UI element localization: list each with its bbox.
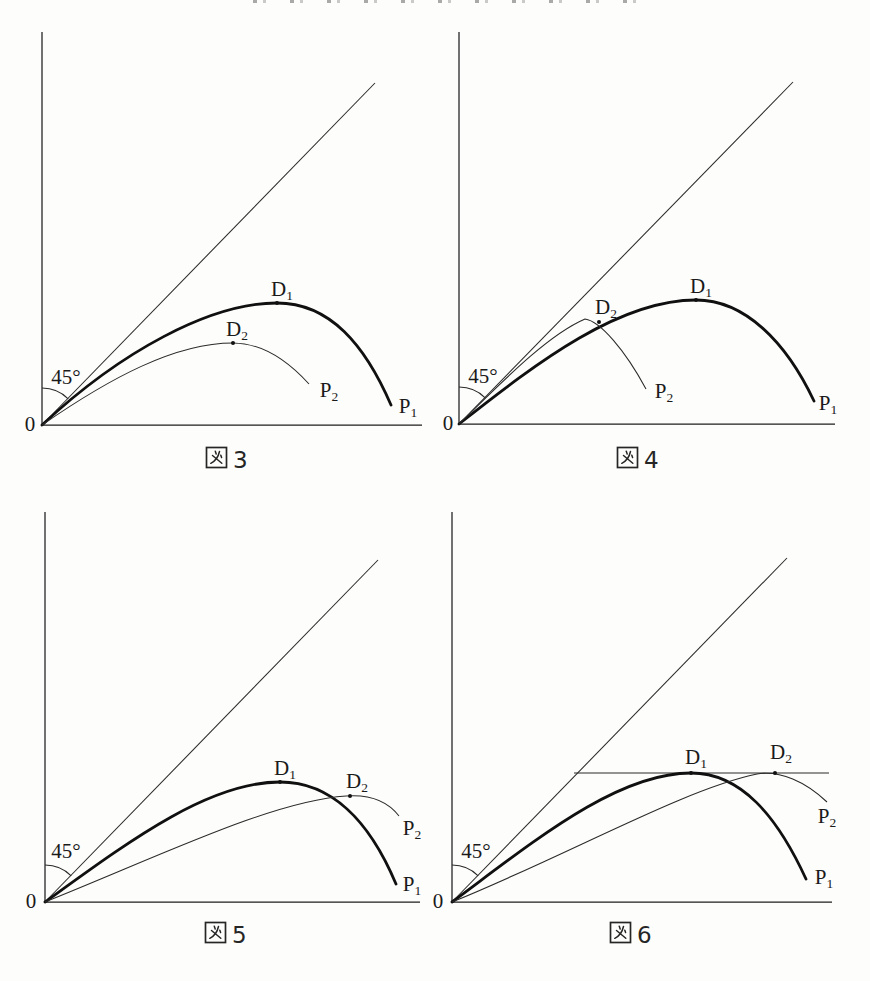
fig3-label-d2-sub: 2	[241, 328, 248, 343]
fig6-angle-arc	[452, 865, 478, 876]
fig5-45deg-line	[45, 560, 378, 902]
fig6-trajectory-p2-curve	[452, 773, 827, 902]
fig4-angle-arc	[459, 387, 485, 398]
fig4-origin-label: 0	[443, 411, 454, 435]
fig3-origin-label: 0	[25, 412, 36, 436]
fig6-label-p1-sub: 1	[826, 876, 833, 891]
fig3-label-d1: D1	[271, 277, 293, 303]
fig3-label-p1-sub: 1	[410, 405, 417, 420]
fig4-angle-label: 45°	[468, 364, 497, 388]
fig4-label-p2-sub: 2	[666, 390, 673, 405]
fig6-label-d1: D1	[685, 745, 707, 771]
fig3-label-d2: D2	[226, 317, 248, 343]
fig6-45deg-line	[452, 558, 787, 902]
fig5-label-d1-sub: 1	[289, 767, 296, 782]
fig4-label-p1-base: P	[819, 391, 831, 415]
fig6-origin-label: 0	[433, 889, 444, 913]
fig5-caption: 5	[206, 922, 247, 948]
fig4-zu-kanji-glyph	[618, 448, 638, 468]
fig3-label-p2-sub: 2	[331, 389, 338, 404]
fig6-trajectory-p1-curve	[452, 773, 806, 902]
fig3-point-d1-dot	[275, 301, 279, 305]
fig5-point-d1-dot	[278, 780, 282, 784]
fig5-label-p1: P1	[403, 872, 421, 898]
fig5-trajectory-p2-curve	[45, 796, 399, 902]
fig3-label-p2-base: P	[320, 378, 332, 402]
fig3-label-d1-sub: 1	[286, 288, 293, 303]
fig5-caption-number: 5	[232, 922, 247, 948]
fig3-angle-label: 45°	[51, 365, 80, 389]
fig3-caption: 3	[207, 447, 248, 473]
fig4-label-d1-base: D	[690, 274, 705, 298]
fig4-label-d2: D2	[595, 295, 617, 321]
fig6-label-p1: P1	[815, 865, 833, 891]
fig4-label-p2-base: P	[655, 379, 667, 403]
fig3-label-p2: P2	[320, 378, 338, 404]
scanned-page: D1 D2 P1 P2 45° 0 3	[0, 0, 870, 981]
fig4-label-p1: P1	[819, 391, 837, 417]
fig6-label-d2: D2	[770, 740, 792, 766]
fig6-label-d1-base: D	[685, 745, 700, 769]
fig5-point-d2-dot	[348, 794, 352, 798]
fig6-label-d1-sub: 1	[700, 756, 707, 771]
fig6-label-d2-base: D	[770, 740, 785, 764]
fig4-label-d1: D1	[690, 274, 712, 300]
fig6-label-p2: P2	[818, 804, 836, 830]
fig5-label-d2-base: D	[346, 769, 361, 793]
fig5-label-d2: D2	[346, 769, 368, 795]
fig3-label-d2-base: D	[226, 317, 241, 341]
fig6-point-d1-dot	[689, 771, 693, 775]
fig3-trajectory-p1-curve	[42, 303, 391, 425]
fig5-angle-label: 45°	[51, 839, 80, 863]
fig3-point-d2-dot	[231, 341, 235, 345]
fig4-label-p2: P2	[655, 379, 673, 405]
fig5-label-p2-base: P	[403, 816, 415, 840]
fig5-angle-arc	[45, 865, 71, 876]
fig5-origin-label: 0	[26, 889, 37, 913]
fig6-label-d2-sub: 2	[785, 751, 792, 766]
fig3-label-d1-base: D	[271, 277, 286, 301]
figure-3: D1 D2 P1 P2 45° 0 3	[25, 32, 422, 473]
fig4-trajectory-p1-curve	[459, 300, 814, 424]
figure-6: D1 D2 P1 P2 45° 0 6	[433, 512, 836, 948]
fig5-label-d1-base: D	[274, 756, 289, 780]
fig5-zu-kanji-glyph	[206, 923, 226, 943]
fig4-caption: 4	[618, 447, 659, 473]
figure-5: D1 D2 P1 P2 45° 0 5	[26, 512, 421, 948]
fig3-label-p1: P1	[399, 394, 417, 420]
fig3-45deg-line	[42, 83, 375, 425]
fig6-caption: 6	[611, 922, 652, 948]
fig3-label-p1-base: P	[399, 394, 411, 418]
fig4-axes	[459, 32, 835, 424]
fig4-label-d1-sub: 1	[705, 285, 712, 300]
fig6-label-p2-base: P	[818, 804, 830, 828]
fig6-label-p2-sub: 2	[829, 815, 836, 830]
fig6-zu-kanji-glyph	[611, 923, 631, 943]
fig5-label-p2: P2	[403, 816, 421, 842]
fig5-label-p2-sub: 2	[414, 827, 421, 842]
fig5-label-p1-base: P	[403, 872, 415, 896]
fig5-label-d1: D1	[274, 756, 296, 782]
fig5-trajectory-p1-curve	[45, 782, 396, 902]
fig3-zu-kanji-glyph	[207, 448, 227, 468]
fig5-label-p1-sub: 1	[414, 883, 421, 898]
fig3-caption-number: 3	[233, 447, 248, 473]
fig6-point-d2-dot	[773, 771, 777, 775]
fig4-label-d2-base: D	[595, 295, 610, 319]
fig5-label-d2-sub: 2	[361, 780, 368, 795]
figure-4: D1 D2 P1 P2 45° 0 4	[443, 32, 837, 473]
fig4-point-d2-dot	[597, 320, 601, 324]
fig6-caption-number: 6	[637, 922, 652, 948]
fig4-point-d1-dot	[694, 298, 698, 302]
fig4-label-p1-sub: 1	[830, 402, 837, 417]
figures-canvas: D1 D2 P1 P2 45° 0 3	[0, 0, 870, 981]
fig3-angle-arc	[42, 388, 68, 399]
fig4-label-d2-sub: 2	[610, 306, 617, 321]
fig4-45deg-line	[459, 82, 793, 424]
fig4-caption-number: 4	[644, 447, 659, 473]
fig6-angle-label: 45°	[461, 839, 490, 863]
fig6-label-p1-base: P	[815, 865, 827, 889]
